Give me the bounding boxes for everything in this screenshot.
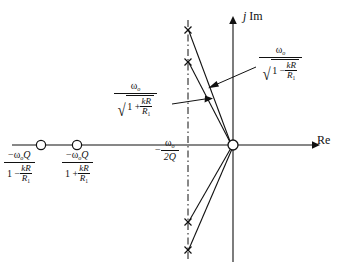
pole-marker-upper-outer: [185, 27, 192, 34]
zero-far-num-omega: −ω: [8, 149, 20, 160]
zero-near-den-lead: 1 +: [65, 168, 78, 179]
real-axis-label: Re: [317, 134, 330, 146]
pole-zero-plot-canvas: [0, 0, 351, 273]
zero-marker-far: [36, 140, 45, 149]
zero-far-den-den-sub: 1: [27, 178, 30, 184]
zero-near-num-tail: Q: [81, 149, 88, 160]
imaginary-axis: [229, 16, 237, 262]
zero-marker-origin: [228, 140, 238, 150]
zero-far-num-tail: Q: [23, 149, 30, 160]
sigma-num-omega: ω: [165, 137, 172, 148]
pole-outer-den-lead: 1 −: [272, 65, 285, 76]
zero-near-den-den-sub: 1: [85, 178, 88, 184]
annotation-zero-left-far: −ωoQ 1 − kR R1: [4, 150, 35, 185]
pole-inner-den-lead: 1 +: [127, 101, 140, 112]
annotation-sigma-asymptote: − ωo 2Q: [155, 138, 179, 163]
pole-outer-den-den-sub: 1: [293, 75, 296, 81]
annotation-zero-left-near: −ωoQ 1 + kR R1: [62, 150, 93, 185]
leader-arrow-inner: [172, 95, 213, 104]
zero-near-num-omega: −ω: [66, 149, 78, 160]
pole-inner-radical: √ 1 + kR R1: [117, 95, 154, 117]
pole-outer-num-sub: o: [282, 49, 285, 56]
sigma-den: 2Q: [161, 151, 179, 163]
imaginary-axis-label: j Im: [243, 10, 263, 22]
radical-icon: √: [263, 66, 271, 83]
root-locus-rays: [189, 30, 233, 250]
imaginary-axis-j: j: [243, 9, 246, 23]
pole-inner-num-sub: o: [137, 85, 140, 92]
pole-outer-radical: √ 1 − kR R1: [262, 59, 299, 81]
pole-zero-figure: −ωoQ 1 − kR R1 −ωoQ 1 + kR R1: [0, 0, 351, 273]
annotation-pole-outer: ωo √ 1 − kR R1: [259, 45, 302, 82]
leader-arrow-outer: [208, 67, 256, 88]
radical-icon: √: [118, 102, 126, 119]
imaginary-axis-im: Im: [249, 9, 262, 23]
pole-inner-den-den-sub: 1: [148, 111, 151, 117]
sigma-num-sub: o: [172, 142, 175, 149]
zero-far-den-lead: 1 −: [7, 168, 20, 179]
annotation-pole-inner: ωo √ 1 + kR R1: [114, 81, 157, 118]
